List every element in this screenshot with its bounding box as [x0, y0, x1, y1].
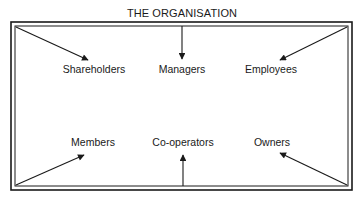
label-owners: Owners: [254, 136, 290, 148]
label-employees: Employees: [245, 63, 297, 75]
organisation-diagram: [0, 0, 364, 201]
label-members: Members: [71, 136, 115, 148]
arrow-to-shareholders: [16, 27, 88, 60]
arrow-to-owners: [280, 153, 347, 185]
label-co-operators: Co-operators: [152, 136, 213, 148]
arrow-to-employees: [280, 27, 347, 60]
label-shareholders: Shareholders: [63, 63, 125, 75]
label-managers: Managers: [159, 63, 206, 75]
arrow-to-members: [16, 155, 84, 185]
